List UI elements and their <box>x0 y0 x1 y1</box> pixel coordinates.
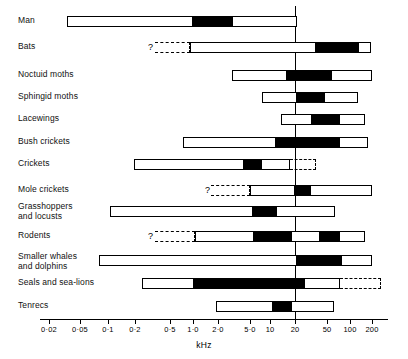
frequency-range-chart: Man Bats Noctuid moths Sphingid moths La… <box>0 0 408 359</box>
tick-200 <box>372 319 373 324</box>
tick-0.05 <box>80 319 81 324</box>
range-bar-bush-crickets <box>183 137 368 148</box>
row-label-seals: Seals and sea-lions <box>18 278 94 288</box>
question-mark-bats: ? <box>148 42 153 53</box>
row-label-sphingid-moths: Sphingid moths <box>18 92 78 102</box>
uncertain-range-crickets <box>290 159 316 170</box>
uncertain-range-mole-crickets <box>211 185 250 196</box>
tick-0.1 <box>108 319 109 324</box>
x-axis-title: kHz <box>0 340 408 350</box>
range-bar-rodents <box>195 231 365 242</box>
peak-range-sphingid-moths-0 <box>296 92 325 103</box>
row-label-lacewings: Lacewings <box>18 114 59 124</box>
tick-20 <box>295 319 296 324</box>
tick-10 <box>270 319 271 324</box>
range-bar-seals-and-sea-lions <box>142 278 340 289</box>
range-bar-smaller-whales-and-dolphins <box>99 255 372 266</box>
tick-label-200: 200 <box>365 325 378 334</box>
peak-range-rodents-1 <box>319 231 340 242</box>
tick-label-0.2: 0·2 <box>129 325 140 334</box>
row-label-bats: Bats <box>18 42 35 52</box>
tick-label-20: 20 <box>291 325 300 334</box>
tick-label-1: 1·0 <box>187 325 198 334</box>
row-label-mole-crickets: Mole crickets <box>18 185 69 195</box>
tick-label-0.1: 0·1 <box>102 325 113 334</box>
peak-range-crickets-0 <box>243 159 262 170</box>
range-bar-man <box>67 16 297 27</box>
range-bar-lacewings <box>281 114 365 125</box>
tick-5 <box>250 319 251 324</box>
x-axis-line <box>40 319 388 320</box>
tick-1 <box>193 319 194 324</box>
peak-range-seals-and-sea-lions-0 <box>193 278 305 289</box>
range-bar-mole-crickets <box>250 185 372 196</box>
question-mark-rodents: ? <box>148 231 153 242</box>
range-bar-sphingid-moths <box>262 92 358 103</box>
peak-range-smaller-whales-and-dolphins-0 <box>296 255 342 266</box>
peak-range-man-0 <box>192 16 233 27</box>
row-label-tenrecs: Tenrecs <box>18 301 48 311</box>
row-label-noctuid-moths: Noctuid moths <box>18 70 74 80</box>
peak-range-mole-crickets-0 <box>294 185 311 196</box>
peak-range-bush-crickets-0 <box>275 137 340 148</box>
uncertain-range-seals-and-sea-lions <box>340 278 381 289</box>
tick-label-100: 100 <box>343 325 356 334</box>
tick-label-0.5: 0·5 <box>164 325 175 334</box>
tick-2 <box>218 319 219 324</box>
tick-0.02 <box>49 319 50 324</box>
peak-range-grasshoppers-and-locusts-0 <box>252 206 277 217</box>
tick-50 <box>327 319 328 324</box>
peak-range-bats-0 <box>315 42 359 53</box>
tick-label-50: 50 <box>323 325 332 334</box>
peak-range-rodents-0 <box>253 231 292 242</box>
tick-label-0.02: 0·02 <box>41 325 57 334</box>
tick-label-0.05: 0·05 <box>72 325 88 334</box>
uncertain-range-rodents <box>155 231 195 242</box>
row-label-crickets: Crickets <box>18 159 50 169</box>
peak-range-noctuid-moths-0 <box>286 70 332 81</box>
row-label-whales: Smaller whales and dolphins <box>18 252 77 271</box>
range-bar-noctuid-moths <box>232 70 372 81</box>
row-label-rodents: Rodents <box>18 231 50 241</box>
tick-100 <box>350 319 351 324</box>
range-bar-crickets <box>134 159 290 170</box>
tick-label-5: 5·0 <box>244 325 255 334</box>
tick-0.2 <box>135 319 136 324</box>
tick-0.5 <box>170 319 171 324</box>
row-label-man: Man <box>18 16 35 26</box>
row-label-bush-crickets: Bush crickets <box>18 137 70 147</box>
range-bar-bats <box>190 42 371 53</box>
uncertain-range-bats <box>155 42 190 53</box>
question-mark-mole-crickets: ? <box>205 185 210 196</box>
row-label-grasshoppers: Grasshoppers and locusts <box>18 202 73 221</box>
range-bar-grasshoppers-and-locusts <box>110 206 335 217</box>
peak-range-lacewings-0 <box>311 114 340 125</box>
range-bar-tenrecs <box>216 301 334 312</box>
tick-label-2: 2·0 <box>212 325 223 334</box>
tick-label-10: 10 <box>266 325 275 334</box>
peak-range-tenrecs-0 <box>272 301 292 312</box>
